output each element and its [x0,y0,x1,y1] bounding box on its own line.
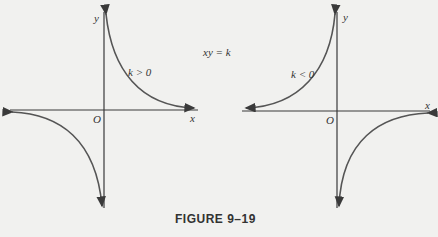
left-x-label: x [190,112,195,124]
right-curve-q4 [339,113,428,206]
figure-caption: FIGURE 9–19 [175,212,256,226]
left-curve-q1 [106,14,194,108]
left-axes [10,12,198,208]
left-origin-label: O [93,113,101,125]
equation-label: xy = k [203,46,231,58]
right-origin-label: O [326,114,334,126]
right-curve-q2 [246,14,335,108]
right-axes [242,12,430,208]
hyperbola-diagram [0,0,438,237]
left-condition-label: k > 0 [128,66,151,78]
right-condition-label: k < 0 [291,68,314,80]
right-x-label: x [425,99,430,111]
left-curve-q3 [12,112,102,206]
right-y-label: y [343,11,348,23]
left-y-label: y [94,12,99,24]
